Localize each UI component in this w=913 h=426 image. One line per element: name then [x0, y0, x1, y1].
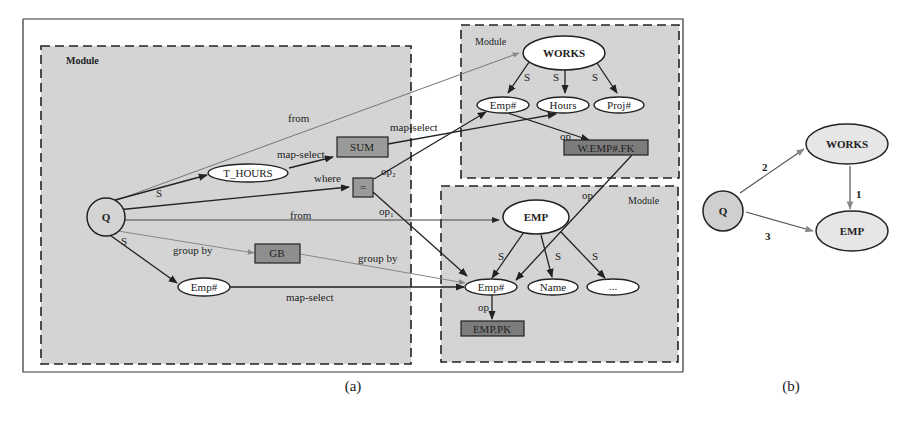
edge-label-op-fk-emp: op — [582, 189, 594, 201]
b-edge-label-3: 3 — [765, 230, 771, 242]
edge-label-group-by-gb: group by — [173, 244, 213, 256]
edge-label-where: where — [314, 172, 341, 184]
b-node-emp-label: EMP — [840, 225, 865, 237]
edge-label-works-s1: S — [524, 71, 530, 83]
figure-canvas: Module Module Module from S map-select m… — [0, 0, 913, 426]
edge-label-from-emp: from — [290, 209, 312, 221]
node-emp-pk-label: EMP.PK — [473, 323, 511, 335]
b-node-works-label: WORKS — [826, 138, 868, 150]
node-works-emp-label: Emp# — [490, 99, 517, 111]
node-works-fk-label: W.EMP#.FK — [577, 142, 634, 154]
node-q-label: Q — [102, 211, 111, 223]
node-works-label: WORKS — [543, 47, 585, 59]
node-emp-name-label: Name — [540, 281, 566, 293]
b-edge-label-2: 2 — [762, 161, 768, 173]
node-eq-label: = — [360, 181, 366, 193]
node-gb-label: GB — [269, 247, 284, 259]
node-t-hours-label: T_HOURS — [223, 167, 273, 179]
edge-label-map-select-emp: map-select — [286, 291, 334, 303]
module-emp-label: Module — [628, 195, 660, 206]
node-emp-emp-label: Emp# — [478, 281, 505, 293]
b-edge-q-works — [740, 149, 804, 193]
edge-label-works-s3: S — [592, 71, 598, 83]
node-emp-label: EMP — [524, 211, 549, 223]
edge-label-from-works: from — [288, 112, 310, 124]
edge-label-s-qemp: S — [121, 235, 127, 247]
b-node-q-label: Q — [719, 205, 728, 217]
edge-label-map-select-sum: map-select — [277, 148, 325, 160]
node-works-hours-label: Hours — [550, 99, 577, 111]
edge-label-emp-s1: S — [498, 250, 504, 262]
edge-label-group-by-emp: group by — [358, 252, 398, 264]
b-edge-q-emp — [746, 212, 813, 231]
module-query-label: Module — [66, 55, 99, 66]
node-q-emp-label: Emp# — [191, 281, 218, 293]
caption-b: (b) — [782, 378, 800, 395]
b-edge-label-1: 1 — [856, 188, 862, 200]
edge-label-works-s2: S — [553, 71, 559, 83]
edge-label-map-select-hours: map-select — [390, 121, 438, 133]
module-works-label: Module — [475, 36, 507, 47]
edge-label-op-pk: op — [478, 301, 490, 313]
node-sum-label: SUM — [350, 141, 374, 153]
node-emp-more-label: ... — [609, 280, 618, 292]
edge-label-emp-s2: S — [555, 250, 561, 262]
edge-label-emp-s3: S — [592, 250, 598, 262]
edge-label-op2: op₂ — [381, 165, 396, 177]
caption-a: (a) — [345, 378, 362, 395]
edge-label-s-thours: S — [156, 187, 162, 199]
edge-label-op1: op₁ — [379, 205, 394, 217]
node-works-proj-label: Proj# — [607, 99, 631, 111]
